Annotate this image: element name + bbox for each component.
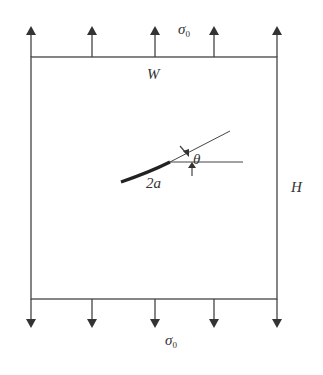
width-label: W xyxy=(147,67,160,82)
bottom-stress-label: σ0 xyxy=(165,333,177,350)
angle-label: θ xyxy=(193,152,200,167)
top-stress-label: σ0 xyxy=(178,22,190,39)
bottom-stress-arrows xyxy=(31,299,277,320)
plate-diagram xyxy=(0,0,323,375)
height-label: H xyxy=(291,180,302,195)
top-stress-arrows xyxy=(31,34,277,57)
crack-length-label: 2a xyxy=(146,176,161,191)
